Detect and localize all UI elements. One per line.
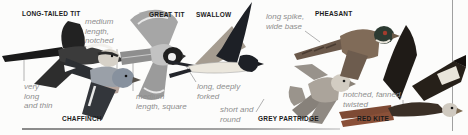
annotation-deeply-forked: long, deeply forked xyxy=(197,82,240,101)
long-tailed-tit-label: LONG-TAILED TIT xyxy=(22,10,80,17)
chaffinch-label: CHAFFINCH xyxy=(62,115,102,122)
red-kite-illustration xyxy=(336,22,466,128)
leader-short-round xyxy=(256,99,264,112)
annotation-notched-fanned: notched, fanned, twisted xyxy=(343,90,403,109)
annotation-very-long-thin: very long and thin xyxy=(24,82,52,111)
swallow-label: SWALLOW xyxy=(196,11,231,18)
annotation-medium-square: medium length, square xyxy=(136,92,187,111)
great-tit-label: GREAT TIT xyxy=(149,11,185,18)
annotation-short-round: short and round xyxy=(220,105,253,124)
annotation-long-spike: long spike, wide base xyxy=(266,12,304,31)
grey-partridge-label: GREY PARTRIDGE xyxy=(258,115,319,122)
pheasant-label: PHEASANT xyxy=(315,10,352,17)
tail-shapes-figure: LONG-TAILED TIT CHAFFINCH GREAT TIT SWAL… xyxy=(0,0,468,135)
red-kite-label: RED KITE xyxy=(357,115,389,122)
bottom-rule xyxy=(22,128,340,130)
annotation-medium-notched: medium length, notched xyxy=(85,17,113,46)
